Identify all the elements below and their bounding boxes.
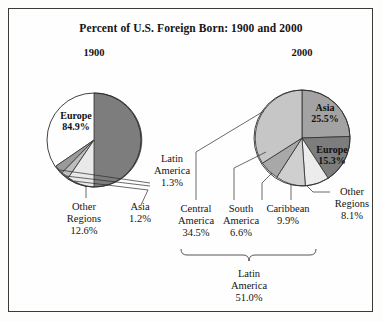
- label-2000-other-regions: Other Regions 8.1%: [335, 186, 369, 221]
- label-1900-other-line1: Other: [67, 201, 101, 213]
- label-2000-asia: Asia 25.5%: [311, 102, 339, 124]
- label-1900-europe: Europe 84.9%: [60, 110, 92, 132]
- label-2000-other-line2: Regions: [335, 198, 369, 210]
- label-2000-other-value: 8.1%: [335, 210, 369, 222]
- label-2000-asia-value: 25.5%: [311, 113, 339, 124]
- label-2000-caribbean-value: 9.9%: [266, 215, 309, 227]
- label-1900-asia-name: Asia: [129, 201, 151, 213]
- label-2000-south-line1: South: [223, 203, 259, 215]
- page-title: Percent of U.S. Foreign Born: 1900 and 2…: [79, 22, 302, 35]
- label-1900-latin-america: Latin America 1.3%: [154, 153, 190, 188]
- panel-heading-2000: 2000: [292, 47, 313, 59]
- label-1900-latin-line2: America: [154, 165, 190, 177]
- label-2000-europe-value: 15.3%: [316, 155, 348, 166]
- label-2000-caribbean-name: Caribbean: [266, 203, 309, 215]
- label-2000-asia-name: Asia: [311, 102, 339, 113]
- label-1900-other-regions: Other Regions 12.6%: [67, 201, 101, 236]
- panel-heading-1900: 1900: [84, 47, 105, 59]
- label-1900-latin-line1: Latin: [154, 153, 190, 165]
- label-2000-latin-line2: America: [231, 280, 267, 292]
- leader-2000-central-america: [196, 111, 264, 200]
- leader-2000-south-america: [262, 173, 272, 200]
- label-2000-europe: Europe 15.3%: [316, 144, 348, 166]
- label-1900-asia: Asia 1.2%: [129, 201, 151, 225]
- leader-2000-other-regions: [307, 186, 330, 192]
- figure-root: Percent of U.S. Foreign Born: 1900 and 2…: [0, 0, 383, 322]
- label-2000-south-america: South America 6.6%: [223, 203, 259, 238]
- label-2000-caribbean: Caribbean 9.9%: [266, 203, 309, 227]
- label-1900-europe-value: 84.9%: [60, 121, 92, 132]
- label-2000-central-value: 34.5%: [178, 227, 214, 239]
- label-2000-latin-value: 51.0%: [231, 292, 267, 304]
- label-2000-latin-america-group: Latin America 51.0%: [231, 268, 267, 303]
- label-2000-south-line2: America: [223, 215, 259, 227]
- label-2000-latin-line1: Latin: [231, 268, 267, 280]
- label-1900-asia-value: 1.2%: [129, 213, 151, 225]
- label-1900-europe-name: Europe: [60, 110, 92, 121]
- label-1900-other-line2: Regions: [67, 213, 101, 225]
- label-2000-central-line2: America: [178, 215, 214, 227]
- label-2000-south-value: 6.6%: [223, 227, 259, 239]
- label-1900-other-value: 12.6%: [67, 225, 101, 237]
- label-1900-latin-value: 1.3%: [154, 177, 190, 189]
- label-2000-other-line1: Other: [335, 186, 369, 198]
- label-2000-central-line1: Central: [178, 203, 214, 215]
- bracket-latin-america: [181, 249, 316, 261]
- label-2000-europe-name: Europe: [316, 144, 348, 155]
- label-2000-central-america: Central America 34.5%: [178, 203, 214, 238]
